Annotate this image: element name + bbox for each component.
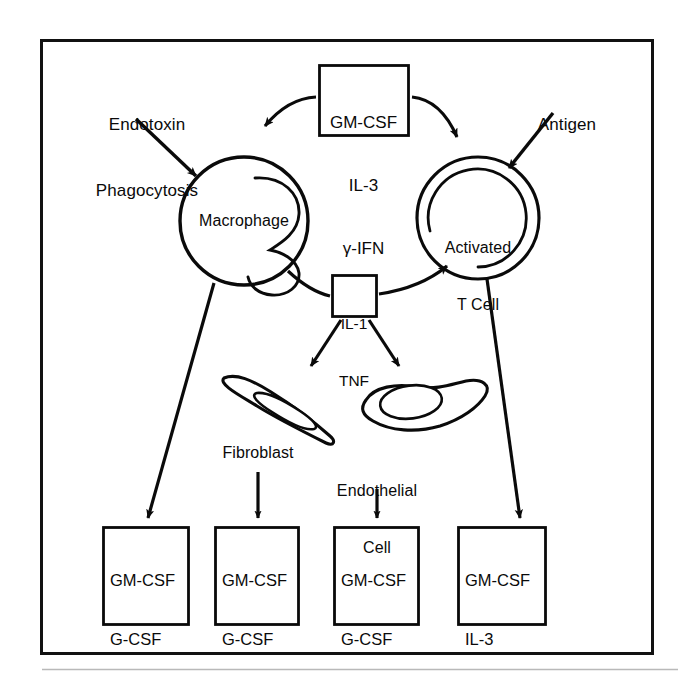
output-box-1-item-0: GM-CSF [222,571,302,591]
t-cell-label-line1: Activated [428,238,528,257]
output-box-0-item-1: G-CSF [110,630,190,650]
output-box-3-item-1: IL-3 [465,630,545,650]
fibroblast-label: Fibroblast [198,443,318,462]
top-mediator-item-2: γ-IFN [319,238,408,259]
middle-mediator-item-1: TNF [332,371,376,390]
stimulus-endotoxin-line1: Endotoxin [72,114,222,136]
output-box-3: GM-CSF IL-3 IL-5 IL-6 [465,532,545,676]
output-box-3-item-0: GM-CSF [465,571,545,591]
top-mediator-box: GM-CSF IL-3 γ-IFN [319,70,408,301]
middle-mediator-item-0: IL-1 [332,314,376,333]
output-box-2-item-0: GM-CSF [341,571,421,591]
stimulus-antigen-line1: Antigen [512,114,622,136]
output-box-0-item-0: GM-CSF [110,571,190,591]
output-box-1-item-1: G-CSF [222,630,302,650]
stimulus-label-antigen: Antigen [512,70,622,180]
output-box-2-item-1: G-CSF [341,630,421,650]
endothelial-label-line1: Endothelial [317,481,437,500]
top-mediator-item-1: IL-3 [319,175,408,196]
t-cell-label: Activated T Cell [428,200,528,352]
t-cell-label-line2: T Cell [428,295,528,314]
output-box-1: GM-CSF G-CSF M-CSF IL-1 IL-6 [222,532,302,676]
macrophage-label: Macrophage [184,211,304,230]
arrow-cytokines-to-t-cell [412,97,457,137]
arrow-cytokines-to-macrophage [265,97,316,126]
output-box-0: GM-CSF G-CSF M-CSF IL-1 IL-6 [110,532,190,676]
figure-root: Endotoxin Phagocytosis Antigen GM-CSF IL… [0,0,685,676]
arrow-macrophage-to-output-box-0 [148,283,214,518]
middle-mediator-box: IL-1 TNF [332,276,376,428]
stimulus-endotoxin-line2: Phagocytosis [72,180,222,202]
top-mediator-item-0: GM-CSF [319,112,408,133]
output-box-2: GM-CSF G-CSF M-CSF IL-1 IL-6 [341,532,421,676]
